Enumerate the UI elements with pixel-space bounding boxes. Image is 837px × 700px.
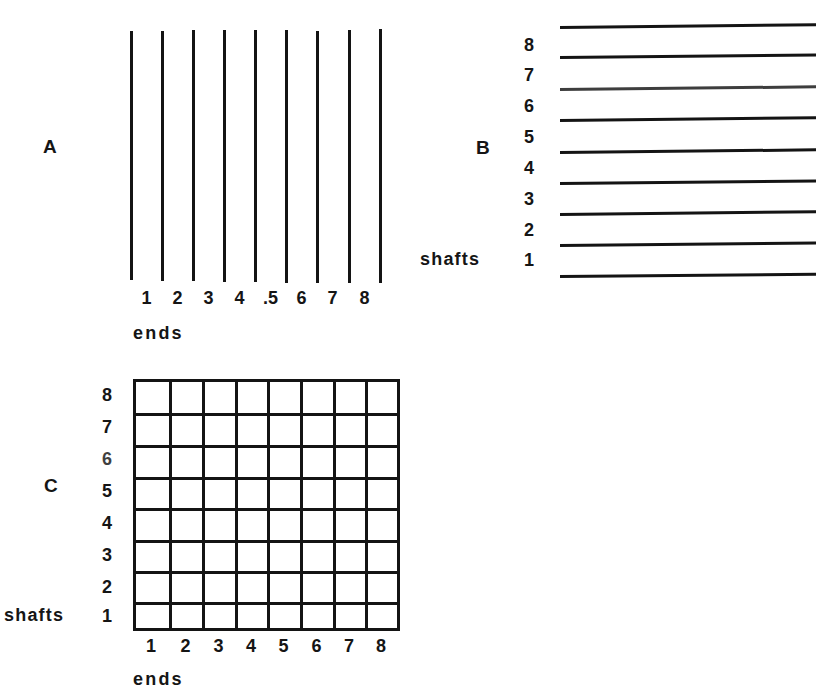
- panel-c-col-tick-2: 2: [169, 637, 202, 655]
- panel-b-lines: [420, 0, 837, 300]
- panel-c-row-tick-6: 6: [98, 450, 116, 468]
- grid-cell[interactable]: [270, 605, 303, 631]
- warp-line: [285, 30, 288, 283]
- grid-cell[interactable]: [303, 543, 336, 574]
- grid-cell[interactable]: [205, 605, 238, 631]
- grid-cell[interactable]: [368, 543, 400, 574]
- panel-c-letter: C: [44, 476, 58, 495]
- grid-cell[interactable]: [270, 574, 303, 605]
- grid-cell[interactable]: [336, 605, 368, 631]
- grid-cell[interactable]: [238, 480, 270, 511]
- figure-canvas: A 1 2 3 4 .5 6 7 8 ends B shafts 8 7 6: [0, 0, 837, 700]
- grid-cell[interactable]: [336, 382, 368, 416]
- panel-c-col-tick-3: 3: [202, 637, 235, 655]
- panel-c-col-tick-5: 5: [267, 637, 300, 655]
- shaft-line: [560, 180, 816, 182]
- grid-cell[interactable]: [336, 480, 368, 511]
- grid-cell[interactable]: [368, 382, 400, 416]
- grid-cell[interactable]: [205, 448, 238, 480]
- grid-cell[interactable]: [172, 448, 205, 480]
- panel-c-row-tick-2: 2: [98, 578, 116, 596]
- panel-c-row-tick-1: 1: [98, 607, 116, 625]
- grid-cell[interactable]: [238, 382, 270, 416]
- grid-cell[interactable]: [172, 382, 205, 416]
- grid-cell[interactable]: [270, 480, 303, 511]
- grid-cell[interactable]: [238, 574, 270, 605]
- shaft-line: [560, 53, 816, 56]
- warp-line: [223, 30, 226, 282]
- grid-cell[interactable]: [136, 543, 172, 574]
- shaft-line: [560, 116, 816, 119]
- panel-c-col-tick-1: 1: [133, 637, 169, 655]
- shaft-line: [560, 23, 816, 26]
- grid-cell[interactable]: [303, 574, 336, 605]
- shaft-line: [560, 273, 816, 275]
- grid-cell[interactable]: [336, 574, 368, 605]
- panel-c-row-tick-7: 7: [98, 418, 116, 436]
- grid-cell[interactable]: [205, 480, 238, 511]
- grid-cell[interactable]: [238, 511, 270, 543]
- panel-c-col-tick-8: 8: [365, 637, 397, 655]
- panel-c-row-tick-4: 4: [98, 514, 116, 532]
- grid-cell[interactable]: [136, 511, 172, 543]
- grid-cell[interactable]: [172, 574, 205, 605]
- grid-cell[interactable]: [368, 448, 400, 480]
- panel-a-axis-label-ends: ends: [133, 324, 184, 342]
- grid-cell[interactable]: [368, 511, 400, 543]
- grid-cell[interactable]: [303, 511, 336, 543]
- grid-cell[interactable]: [238, 448, 270, 480]
- grid-cell[interactable]: [238, 543, 270, 574]
- grid-cell[interactable]: [368, 416, 400, 448]
- grid-cell[interactable]: [303, 382, 336, 416]
- panel-a-tick-8: 8: [349, 289, 380, 307]
- grid-cell[interactable]: [336, 448, 368, 480]
- grid-cell[interactable]: [368, 480, 400, 511]
- grid-cell[interactable]: [136, 416, 172, 448]
- grid-cell[interactable]: [368, 605, 400, 631]
- grid-cell[interactable]: [303, 480, 336, 511]
- grid-cell[interactable]: [205, 382, 238, 416]
- warp-line: [161, 31, 164, 281]
- grid-cell[interactable]: [270, 511, 303, 543]
- grid-cell[interactable]: [172, 543, 205, 574]
- panel-a-tick-3: 3: [193, 289, 224, 307]
- grid-cell[interactable]: [136, 574, 172, 605]
- grid-cell[interactable]: [238, 416, 270, 448]
- warp-line: [316, 31, 319, 283]
- grid-cell[interactable]: [336, 511, 368, 543]
- grid-cell[interactable]: [270, 543, 303, 574]
- warp-line: [254, 30, 257, 282]
- panel-c-axis-label-ends: ends: [133, 670, 184, 688]
- panel-a-tick-6: 6: [286, 289, 317, 307]
- grid-cell[interactable]: [270, 382, 303, 416]
- grid-cell[interactable]: [205, 511, 238, 543]
- grid-cell[interactable]: [270, 416, 303, 448]
- grid-cell[interactable]: [136, 448, 172, 480]
- grid-cell[interactable]: [368, 574, 400, 605]
- warp-line: [130, 31, 133, 280]
- grid-cell[interactable]: [136, 480, 172, 511]
- panel-a: A 1 2 3 4 .5 6 7 8 ends: [0, 0, 420, 360]
- grid-cell[interactable]: [303, 416, 336, 448]
- grid-cell[interactable]: [172, 416, 205, 448]
- design-grid: [133, 379, 400, 631]
- panel-c-col-tick-7: 7: [333, 637, 365, 655]
- grid-cell[interactable]: [238, 605, 270, 631]
- grid-cell[interactable]: [205, 574, 238, 605]
- grid-cell[interactable]: [303, 448, 336, 480]
- grid-cell[interactable]: [136, 382, 172, 416]
- grid-cell[interactable]: [336, 543, 368, 574]
- grid-cell[interactable]: [205, 543, 238, 574]
- grid-cell[interactable]: [136, 605, 172, 631]
- panel-a-tick-5: .5: [255, 289, 286, 307]
- grid-cell[interactable]: [270, 448, 303, 480]
- grid-cell[interactable]: [172, 605, 205, 631]
- grid-cell[interactable]: [336, 416, 368, 448]
- grid-cell[interactable]: [172, 480, 205, 511]
- grid-cell[interactable]: [205, 416, 238, 448]
- panel-c-axis-label-shafts: shafts: [4, 606, 64, 624]
- warp-line: [192, 30, 195, 281]
- grid-cell[interactable]: [303, 605, 336, 631]
- panel-a-tick-4: 4: [224, 289, 255, 307]
- grid-cell[interactable]: [172, 511, 205, 543]
